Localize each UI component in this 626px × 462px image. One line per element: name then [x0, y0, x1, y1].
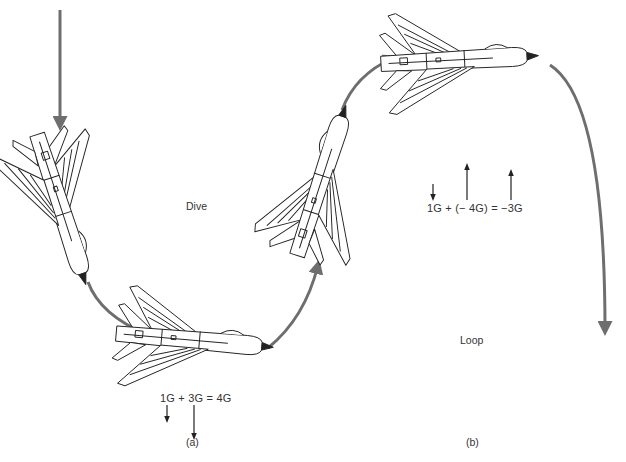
- panel-label-b: (b): [466, 436, 479, 448]
- equation-a: 1G + 3G = 4G: [160, 392, 232, 404]
- force-vectors-a: [167, 405, 194, 437]
- path-loop-arrow: [550, 65, 605, 330]
- panel-label-a: (a): [186, 436, 199, 448]
- force-vectors-b: [433, 166, 511, 200]
- aircraft-loop-top: [377, 6, 542, 115]
- aircraft-diving: [0, 117, 133, 300]
- maneuver-label-loop: Loop: [460, 334, 483, 346]
- aircraft-pullout: [110, 284, 278, 398]
- path-pullout-to-climb-arrow: [268, 265, 318, 348]
- equation-b: 1G + (− 4G) = −3G: [427, 202, 523, 214]
- aircraft-climbing: [250, 90, 395, 273]
- diagram-canvas: [0, 0, 626, 462]
- maneuver-label-dive: Dive: [186, 200, 207, 212]
